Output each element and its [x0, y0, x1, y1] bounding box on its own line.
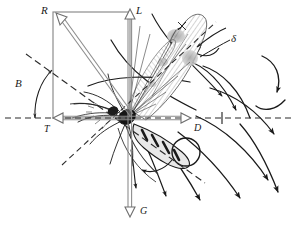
wake-curl-lower: [256, 100, 285, 109]
label-stroke-angle: δ: [231, 33, 236, 44]
streamline-12: [240, 124, 278, 192]
label-lift: L: [136, 5, 142, 16]
label-gravity: G: [140, 206, 147, 216]
label-drag: D: [194, 123, 201, 133]
label-body-angle: B: [15, 78, 22, 89]
label-resultant: R: [41, 5, 48, 16]
body-angle-arc: [35, 70, 52, 118]
stroke-angle-arc-2: [200, 40, 230, 57]
resultant-vector: [56, 13, 133, 116]
figure-canvas: R L T D G B δ: [0, 0, 293, 230]
insect-drawing: [70, 14, 207, 182]
label-thrust: T: [44, 124, 50, 134]
diagram-svg: [0, 0, 293, 230]
wing-stipple-2: [182, 50, 198, 66]
streamline-3: [186, 60, 236, 110]
wake-curl-upper: [262, 56, 279, 92]
